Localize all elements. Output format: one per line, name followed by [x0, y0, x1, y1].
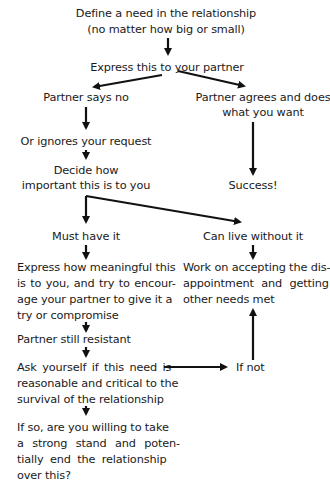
partner-still-resistant: Partner still resistant	[17, 332, 131, 348]
ask-yourself-line: reasonable and critical to the	[17, 376, 178, 392]
express-step: Express this to your partner	[90, 60, 244, 76]
partner-says-no: Partner says no	[43, 90, 128, 106]
express-meaning-line: is to you, and try to encour-	[17, 276, 176, 292]
express-meaning-line: try or compromise	[17, 308, 119, 324]
start-step-line1: Define a need in the relationship	[76, 6, 256, 22]
partner-agrees-line1: Partner agrees and does	[196, 90, 330, 106]
if-so-line: a strong stand and poten-	[17, 436, 180, 452]
if-so-line: tially end the relationship	[17, 452, 166, 468]
work-on-line: other needs met	[183, 292, 275, 308]
ignores-request: Or ignores your request	[21, 134, 152, 150]
express-meaning-line: Express how meaningful this	[17, 260, 176, 276]
must-have-it: Must have it	[52, 229, 120, 245]
ask-yourself-line: survival of the relationship	[17, 392, 164, 408]
start-step-line2: (no matter how big or small)	[87, 22, 244, 38]
can-live-without-it: Can live without it	[203, 229, 303, 245]
ask-yourself-line: Ask yourself if this need is	[17, 360, 171, 376]
if-so-line: over this?	[17, 468, 71, 484]
work-on-line: appointment and getting	[183, 276, 329, 292]
success-step: Success!	[229, 178, 278, 194]
decide-line1: Decide how	[54, 163, 119, 179]
if-not-step: If not	[236, 360, 265, 376]
work-on-line: Work on accepting the dis-	[183, 260, 330, 276]
arrow-express-to-says-no	[94, 75, 162, 87]
arrow-decide-to-can-live	[86, 196, 240, 222]
if-so-line: If so, are you willing to take	[17, 420, 169, 436]
express-meaning-line: age your partner to give it a	[17, 292, 172, 308]
decide-line2: important this is to you	[22, 178, 150, 194]
partner-agrees-line2: what you want	[222, 105, 304, 121]
